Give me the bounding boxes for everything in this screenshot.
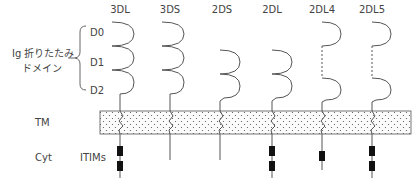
itim-boxes	[117, 146, 375, 171]
membrane	[100, 111, 411, 134]
kir-diagram	[0, 0, 419, 187]
brace-icon	[75, 26, 86, 90]
